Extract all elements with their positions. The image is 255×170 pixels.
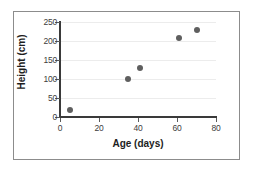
x-axis-tick — [177, 118, 178, 122]
data-point — [125, 76, 131, 82]
x-axis-tick-label: 80 — [201, 124, 231, 133]
data-point — [194, 27, 200, 33]
data-point — [137, 65, 143, 71]
x-axis-tick — [99, 118, 100, 122]
x-axis-tick-label: 40 — [123, 124, 153, 133]
x-axis-tick — [216, 118, 217, 122]
data-point — [67, 107, 73, 113]
data-point — [176, 35, 182, 41]
x-axis-title: Age (days) — [60, 139, 216, 149]
plot-area — [60, 22, 216, 117]
x-axis-tick — [60, 118, 61, 122]
y-axis-tick-label: 0 — [17, 113, 57, 122]
y-axis-title: Height (cm) — [17, 15, 27, 110]
x-axis-tick — [138, 118, 139, 122]
chart-figure: 050100150200250 020406080 Age (days) Hei… — [0, 0, 255, 170]
x-axis-tick-label: 60 — [162, 124, 192, 133]
x-axis-tick-label: 20 — [84, 124, 114, 133]
x-axis-tick-label: 0 — [45, 124, 75, 133]
